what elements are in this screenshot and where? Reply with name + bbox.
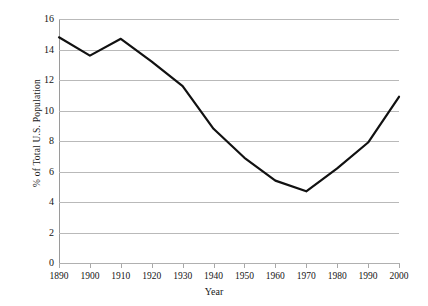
y-tick-label: 14 <box>8 45 54 55</box>
y-tick-label: 10 <box>8 106 54 116</box>
x-tick <box>275 264 276 268</box>
y-axis-tick-labels: 0246810121416 <box>0 19 54 263</box>
x-axis-title: Year <box>0 286 428 297</box>
y-tick-label: 6 <box>8 167 54 177</box>
x-tick <box>90 264 91 268</box>
x-tick <box>183 264 184 268</box>
x-tick <box>214 264 215 268</box>
x-tick <box>399 264 400 268</box>
y-tick-label: 2 <box>8 228 54 238</box>
x-tick <box>368 264 369 268</box>
x-tick <box>121 264 122 268</box>
y-tick-label: 8 <box>8 136 54 146</box>
plot-area <box>59 19 399 263</box>
y-tick-label: 0 <box>8 258 54 268</box>
x-axis-tick-labels: 1890190019101920193019401950196019701980… <box>59 270 400 284</box>
x-tick <box>337 264 338 268</box>
y-tick-label: 12 <box>8 75 54 85</box>
x-tick <box>59 264 60 268</box>
x-axis-ticks <box>59 264 400 269</box>
y-tick-label: 4 <box>8 197 54 207</box>
x-tick-label: 2000 <box>379 270 419 282</box>
chart-figure: % of Total U.S. Population 0246810121416… <box>0 0 428 306</box>
x-tick <box>244 264 245 268</box>
x-tick <box>152 264 153 268</box>
y-tick-label: 16 <box>8 14 54 24</box>
line-series <box>59 19 399 263</box>
x-tick <box>306 264 307 268</box>
series-polyline <box>59 37 399 191</box>
